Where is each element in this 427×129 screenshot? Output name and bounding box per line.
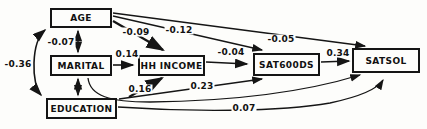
node-marital-label: MARITAL <box>57 61 104 71</box>
coefficient-age-marital: -0.07 <box>47 38 76 47</box>
edge-hhincome-satgoods <box>206 62 247 64</box>
node-education-label: EDUCATION <box>50 104 112 114</box>
coefficient-marital-hhincome: 0.14 <box>114 50 139 59</box>
coefficient-age-education: -0.36 <box>4 60 33 69</box>
coefficient-hhincome-satgoods: -0.04 <box>217 48 246 57</box>
node-satgoods-label: SAT600DS <box>259 60 314 70</box>
node-hh-income-label: HH INCOME <box>140 61 202 71</box>
node-education: EDUCATION <box>46 98 117 119</box>
coefficient-age-satgoods: -0.12 <box>165 26 194 35</box>
node-satsol: SATSOL <box>352 48 420 73</box>
coefficient-age-hhincome: -0.09 <box>122 28 151 37</box>
edge-satgoods-satsol <box>321 61 349 62</box>
coefficient-education-hhincome: 0.16 <box>127 85 152 94</box>
path-diagram: AGE MARITAL EDUCATION HH INCOME SAT600DS… <box>0 0 427 129</box>
coefficient-education-satsol: 0.07 <box>231 104 256 113</box>
node-age-label: AGE <box>70 13 92 23</box>
edge-age-education-covariance <box>34 30 45 95</box>
node-satsol-label: SATSOL <box>365 56 406 66</box>
node-hh-income: HH INCOME <box>138 55 205 76</box>
node-marital: MARITAL <box>50 55 112 76</box>
node-age: AGE <box>50 8 112 28</box>
coefficient-education-satgoods: 0.23 <box>189 82 214 91</box>
coefficient-satgoods-satsol: 0.34 <box>325 49 350 58</box>
node-satgoods: SAT600DS <box>253 53 320 76</box>
edge-age-satsol <box>113 13 365 46</box>
coefficient-age-satsol: -0.05 <box>267 35 296 44</box>
